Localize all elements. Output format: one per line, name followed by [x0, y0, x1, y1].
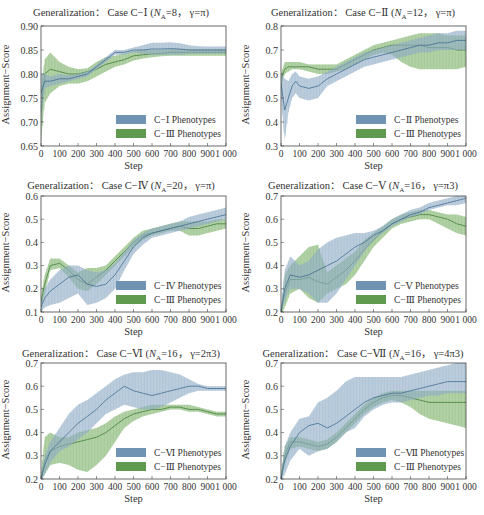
x-tick-label: 800 — [182, 315, 197, 325]
legend-swatch-blue — [356, 281, 386, 290]
legend-item: C−Ⅲ Phenotypes — [356, 292, 461, 306]
x-tick-label: 0 — [39, 315, 44, 325]
y-tick-label: 0.4 — [26, 427, 39, 438]
x-axis-label: Step — [281, 326, 466, 337]
x-tick-label: 300 — [329, 149, 344, 159]
x-tick-label: 100 — [52, 149, 67, 159]
x-tick-label: 200 — [311, 315, 326, 325]
y-axis-label: Assignment−Score — [0, 360, 11, 480]
y-tick-label: 0.4 — [266, 427, 279, 438]
legend-swatch-green — [356, 462, 386, 471]
legend-swatch-green — [116, 462, 146, 471]
figure-caption-faint — [0, 505, 484, 515]
x-tick-label: 400 — [348, 315, 363, 325]
y-tick-label: 0.7 — [266, 358, 279, 369]
y-tick-label: 0.65 — [21, 141, 39, 152]
legend-item: C−Ⅲ Phenotypes — [116, 459, 221, 473]
legend-label: C−Ⅰ Phenotypes — [154, 114, 216, 125]
x-tick-label: 300 — [329, 315, 344, 325]
legend-label: C−Ⅱ Phenotypes — [394, 114, 458, 125]
legend-item: C−Ⅱ Phenotypes — [356, 112, 461, 126]
chart-panel-1: Generalization： Case C−Ⅰ (NA=8， γ=π)0100… — [0, 0, 242, 170]
y-axis-label: Assignment−Score — [0, 193, 11, 313]
x-tick-label: 600 — [385, 315, 400, 325]
y-axis-label: Assignment−Score — [240, 25, 251, 145]
chart-panel-4: Generalization： Case C−Ⅴ (NA=16， γ=π3)01… — [242, 170, 484, 340]
legend-item: C−Ⅲ Phenotypes — [356, 126, 461, 140]
legend-swatch-green — [356, 129, 386, 138]
x-tick-label: 300 — [89, 315, 104, 325]
legend-label: C−Ⅲ Phenotypes — [154, 128, 221, 139]
legend-item: C−Ⅴ Phenotypes — [356, 278, 461, 292]
x-tick-label: 600 — [145, 149, 160, 159]
x-tick-label: 700 — [403, 482, 418, 492]
legend-swatch-green — [356, 295, 386, 304]
y-tick-label: 0.1 — [26, 307, 39, 318]
y-tick-label: 0.2 — [266, 307, 279, 318]
x-tick-label: 500 — [126, 315, 141, 325]
legend-swatch-green — [116, 295, 146, 304]
legend-swatch-blue — [116, 281, 146, 290]
y-tick-label: 0.5 — [26, 404, 39, 415]
x-tick-label: 300 — [89, 482, 104, 492]
legend-label: C−Ⅲ Phenotypes — [394, 294, 461, 305]
x-tick-label: 1 000 — [455, 315, 477, 325]
y-tick-label: 0.6 — [26, 191, 39, 202]
y-tick-label: 0.6 — [266, 69, 279, 80]
x-tick-label: 1 000 — [215, 482, 237, 492]
x-tick-label: 200 — [311, 482, 326, 492]
x-tick-label: 300 — [329, 482, 344, 492]
x-axis-label: Step — [281, 493, 466, 504]
y-tick-label: 0.5 — [266, 404, 279, 415]
x-tick-label: 700 — [403, 149, 418, 159]
y-tick-label: 0.5 — [266, 93, 279, 104]
legend-item: C−Ⅰ Phenotypes — [116, 112, 221, 126]
x-tick-label: 400 — [108, 315, 123, 325]
x-tick-label: 500 — [126, 149, 141, 159]
chart-panel-3: Generalization： Case C−Ⅳ (NA=20， γ=π)010… — [0, 170, 242, 340]
x-tick-label: 900 — [440, 315, 455, 325]
y-axis-label: Assignment−Score — [0, 25, 11, 145]
legend-swatch-blue — [116, 115, 146, 124]
y-tick-label: 0.7 — [26, 358, 39, 369]
legend-swatch-blue — [116, 448, 146, 457]
x-tick-label: 900 — [200, 149, 215, 159]
legend-item: C−Ⅶ Phenotypes — [356, 445, 464, 459]
chart-legend: C−Ⅱ PhenotypesC−Ⅲ Phenotypes — [356, 112, 461, 140]
y-tick-label: 0.3 — [266, 283, 279, 294]
x-tick-label: 100 — [292, 482, 307, 492]
y-tick-label: 0.2 — [26, 474, 39, 485]
x-tick-label: 0 — [39, 482, 44, 492]
x-tick-label: 100 — [292, 315, 307, 325]
y-tick-label: 0.4 — [266, 260, 279, 271]
y-tick-label: 0.3 — [266, 450, 279, 461]
legend-item: C−Ⅳ Phenotypes — [116, 278, 221, 292]
y-tick-label: 0.4 — [26, 237, 39, 248]
legend-label: C−Ⅲ Phenotypes — [394, 461, 461, 472]
x-tick-label: 800 — [422, 482, 437, 492]
y-tick-label: 0.70 — [21, 117, 39, 128]
x-tick-label: 100 — [52, 315, 67, 325]
plot-area: 01002003004005006007008009001 0000.20.30… — [242, 170, 484, 340]
x-tick-label: 600 — [145, 482, 160, 492]
x-tick-label: 700 — [163, 315, 178, 325]
x-tick-label: 800 — [422, 315, 437, 325]
legend-item: C−Ⅲ Phenotypes — [356, 459, 464, 473]
legend-label: C−Ⅲ Phenotypes — [394, 128, 461, 139]
legend-swatch-blue — [356, 448, 386, 457]
plot-area: 01002003004005006007008009001 0000.650.7… — [0, 0, 242, 170]
x-tick-label: 900 — [440, 149, 455, 159]
y-tick-label: 0.3 — [266, 141, 279, 152]
y-tick-label: 0.90 — [21, 21, 39, 32]
y-tick-label: 0.6 — [26, 381, 39, 392]
legend-label: C−Ⅲ Phenotypes — [154, 461, 221, 472]
x-tick-label: 700 — [163, 482, 178, 492]
chart-panel-2: Generalization： Case C−Ⅱ (NA=12， γ=π)010… — [242, 0, 484, 170]
x-tick-label: 1 000 — [455, 149, 477, 159]
y-tick-label: 0.5 — [26, 214, 39, 225]
x-tick-label: 900 — [440, 482, 455, 492]
y-tick-label: 0.3 — [26, 260, 39, 271]
y-axis-label: Assignment−Score — [240, 193, 251, 313]
x-tick-label: 600 — [145, 315, 160, 325]
x-tick-label: 400 — [348, 149, 363, 159]
